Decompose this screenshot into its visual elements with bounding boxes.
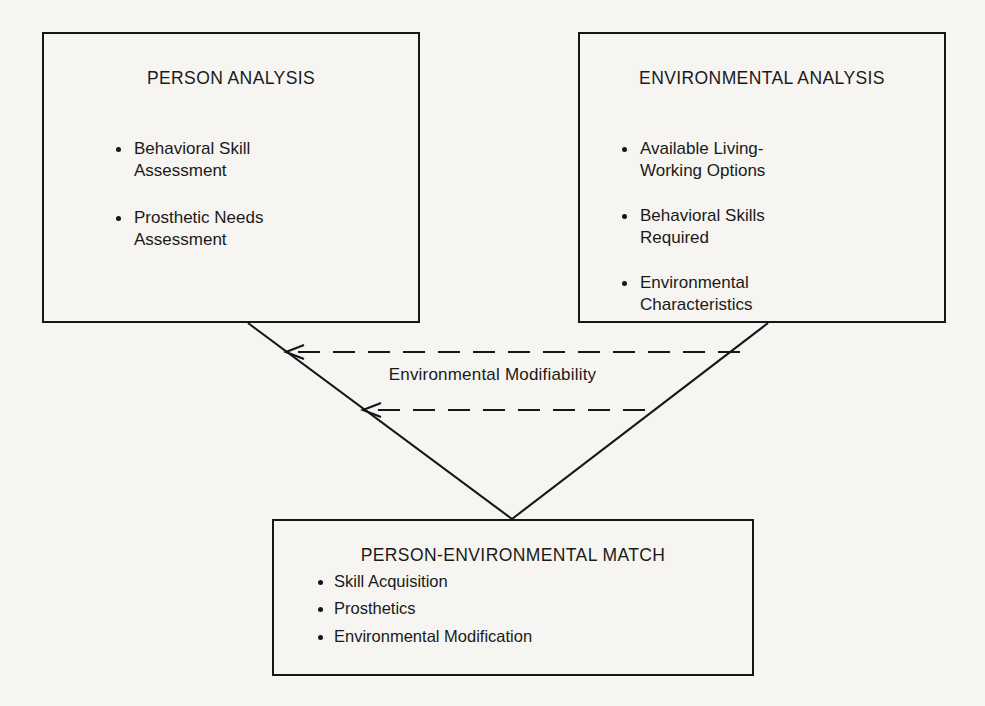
bullet-dot-icon: [318, 635, 323, 640]
list-item-label: Prosthetics: [334, 598, 532, 619]
bullet-dot-icon: [318, 580, 323, 585]
node-person-analysis: PERSON ANALYSIS Behavioral Skill Assessm…: [42, 32, 420, 323]
diagram-canvas: PERSON ANALYSIS Behavioral Skill Assessm…: [0, 0, 985, 706]
bullet-dot-icon: [318, 607, 323, 612]
arrowhead-modifiability-lower-icon: [363, 403, 381, 417]
edge-environment-to-match: [512, 323, 768, 519]
list-item-label: Behavioral Skill Assessment: [134, 138, 263, 183]
list-item: Environmental Modification: [316, 626, 532, 647]
node-environmental-analysis-list: Available Living- Working Options Behavi…: [620, 138, 765, 317]
arrowhead-modifiability-upper-icon: [286, 345, 304, 359]
node-person-environmental-match: PERSON-ENVIRONMENTAL MATCH Skill Acquisi…: [272, 519, 754, 676]
list-item-label: Environmental Modification: [334, 626, 532, 647]
node-environmental-analysis-title: ENVIRONMENTAL ANALYSIS: [580, 68, 944, 89]
bullet-dot-icon: [116, 216, 121, 221]
list-item: Environmental Characteristics: [620, 272, 765, 317]
bullet-dot-icon: [622, 147, 627, 152]
bullet-dot-icon: [116, 147, 121, 152]
edge-label-environmental-modifiability: Environmental Modifiability: [0, 365, 985, 385]
bullet-dot-icon: [622, 214, 627, 219]
node-environmental-analysis: ENVIRONMENTAL ANALYSIS Available Living-…: [578, 32, 946, 323]
list-item: Behavioral Skills Required: [620, 205, 765, 250]
edge-person-to-match: [248, 323, 512, 519]
list-item-label: Prosthetic Needs Assessment: [134, 207, 263, 252]
list-item: Skill Acquisition: [316, 571, 532, 592]
list-item-label: Behavioral Skills Required: [640, 205, 765, 250]
list-item-label: Skill Acquisition: [334, 571, 532, 592]
node-person-analysis-title: PERSON ANALYSIS: [44, 68, 418, 89]
list-item: Prosthetic Needs Assessment: [114, 207, 263, 252]
list-item: Prosthetics: [316, 598, 532, 619]
node-person-environmental-match-title: PERSON-ENVIRONMENTAL MATCH: [274, 545, 752, 566]
list-item: Behavioral Skill Assessment: [114, 138, 263, 183]
bullet-dot-icon: [622, 281, 627, 286]
list-item: Available Living- Working Options: [620, 138, 765, 183]
node-person-environmental-match-list: Skill Acquisition Prosthetics Environmen…: [316, 571, 532, 647]
list-item-label: Available Living- Working Options: [640, 138, 765, 183]
list-item-label: Environmental Characteristics: [640, 272, 765, 317]
node-person-analysis-list: Behavioral Skill Assessment Prosthetic N…: [114, 138, 263, 252]
